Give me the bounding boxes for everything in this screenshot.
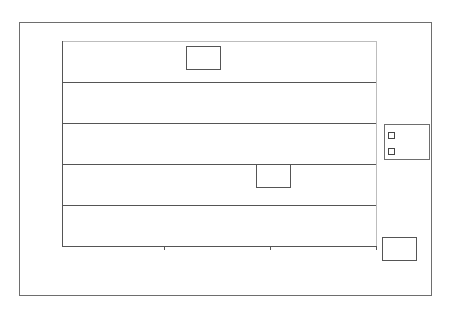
significance-annotation-cd8: [382, 237, 417, 261]
gridline-1450: [62, 41, 376, 42]
x-axis: [62, 246, 376, 247]
significance-annotation-cd3: [186, 46, 221, 70]
plot-right-edge: [376, 41, 377, 246]
y-axis: [62, 41, 63, 246]
x-tick: [164, 246, 165, 250]
gridline-1050: [62, 123, 376, 124]
legend-swatch-icon: [388, 148, 395, 155]
x-tick: [376, 246, 377, 250]
gridline-650: [62, 205, 376, 206]
plot-area: [62, 41, 376, 246]
significance-annotation-cd4: [256, 164, 291, 188]
legend: [384, 124, 430, 160]
legend-item-test2: [388, 145, 397, 157]
x-tick: [270, 246, 271, 250]
legend-item-test1: [388, 129, 397, 141]
legend-swatch-icon: [388, 132, 395, 139]
gridline-850: [62, 164, 376, 165]
gridline-1250: [62, 82, 376, 83]
